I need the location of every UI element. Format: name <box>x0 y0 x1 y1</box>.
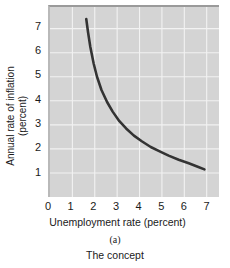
vertical-gridlines <box>72 7 206 197</box>
x-tick-label: 7 <box>197 200 217 212</box>
x-tick-label: 5 <box>151 200 171 212</box>
x-tick-label: 3 <box>106 200 126 212</box>
panel-label: (a) <box>0 234 230 246</box>
x-tick-label: 0 <box>38 200 58 212</box>
plot-area <box>48 5 219 197</box>
y-axis-title-line1: Annual rate of inflation <box>5 41 17 191</box>
x-tick-label: 6 <box>174 200 194 212</box>
x-tick-label: 1 <box>61 200 81 212</box>
figure-caption: The concept <box>0 249 230 261</box>
phillips-curve-line <box>86 19 204 169</box>
x-axis-ticks: 01234567 <box>0 200 230 214</box>
chart-canvas <box>50 7 219 197</box>
horizontal-gridlines <box>50 29 219 173</box>
x-axis-title: Unemployment rate (percent) <box>20 216 215 228</box>
y-axis-title-line2: (percent) <box>17 41 29 191</box>
y-axis-title: Annual rate of inflation (percent) <box>5 41 29 191</box>
x-tick-label: 2 <box>83 200 103 212</box>
y-tick-label: 7 <box>21 21 41 32</box>
phillips-curve-figure: 1234567 Annual rate of inflation (percen… <box>0 0 230 268</box>
x-tick-label: 4 <box>129 200 149 212</box>
